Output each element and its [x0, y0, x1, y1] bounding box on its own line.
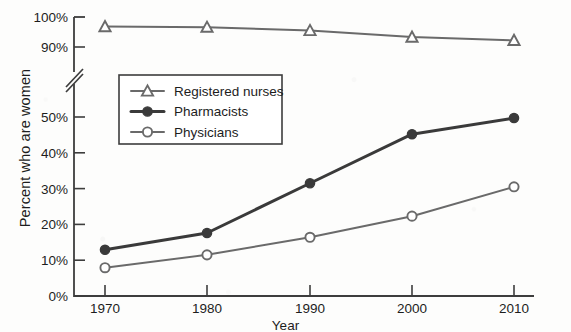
legend-label: Registered nurses — [174, 84, 284, 99]
legend-marker — [143, 127, 152, 136]
data-point — [305, 233, 314, 242]
data-point — [509, 182, 518, 191]
data-point — [407, 212, 416, 221]
data-point — [202, 228, 211, 237]
data-point — [202, 250, 211, 259]
data-point — [407, 130, 416, 139]
data-point — [100, 245, 109, 254]
axes — [74, 17, 534, 296]
data-point — [100, 263, 109, 272]
chart-figure: Percent who are women 0%10%20%30%40%50%9… — [0, 0, 571, 332]
series-registered-nurses — [99, 21, 519, 45]
data-point — [305, 179, 314, 188]
legend-label: Pharmacists — [174, 104, 249, 119]
series-physicians — [100, 182, 518, 272]
legend-label: Physicians — [174, 125, 239, 140]
chart-legend: Registered nursesPharmacistsPhysicians — [119, 75, 284, 144]
line-chart-plot: Registered nursesPharmacistsPhysicians — [0, 0, 571, 332]
data-series-group — [99, 21, 519, 272]
legend-marker — [143, 107, 152, 116]
data-point — [509, 113, 518, 122]
